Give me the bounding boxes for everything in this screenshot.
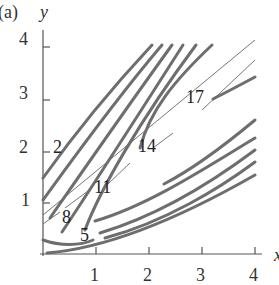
contour-label-14: 14	[138, 137, 156, 155]
contour-label-2: 2	[53, 138, 62, 156]
x-tick-4: 4	[249, 266, 258, 284]
y-axis-label: y	[40, 3, 48, 21]
y-tick-3: 3	[19, 84, 28, 102]
x-axis-label: x	[274, 246, 279, 264]
contours-lower	[43, 77, 255, 253]
contour-label-11: 11	[94, 178, 111, 196]
x-tick-3: 3	[196, 266, 205, 284]
y-tick-1: 1	[21, 191, 30, 209]
x-tick-2: 2	[143, 266, 152, 284]
x-tick-1: 1	[90, 266, 99, 284]
contour-label-8: 8	[62, 208, 71, 226]
contour-label-17: 17	[186, 88, 204, 106]
y-tick-4: 4	[19, 30, 28, 48]
contour-label-5: 5	[80, 226, 89, 244]
panel-label: (a)	[0, 3, 18, 21]
ridge-line	[43, 40, 255, 215]
y-tick-2: 2	[19, 138, 28, 156]
